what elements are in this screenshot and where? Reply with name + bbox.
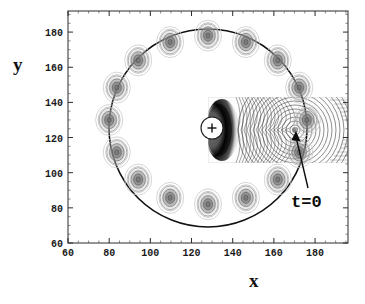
y-tick-label: 80 — [51, 204, 63, 215]
x-tick-label: 180 — [306, 248, 324, 259]
contour-blob — [264, 45, 291, 76]
contour-blob — [195, 189, 222, 220]
center-source-marker — [201, 117, 223, 139]
y-tick-label: 140 — [45, 98, 63, 109]
contour-blob — [293, 104, 320, 135]
x-axis-title: x — [249, 270, 259, 292]
contour-blob — [125, 164, 152, 195]
contour-blob — [286, 72, 313, 103]
y-tick-label: 160 — [45, 63, 63, 74]
contour-blob — [232, 27, 259, 58]
contour-blob — [157, 27, 184, 58]
y-axis-title: y — [13, 54, 23, 76]
x-tick-label: 160 — [265, 248, 283, 259]
x-tick-label: 60 — [62, 248, 74, 259]
contour-blob — [103, 72, 130, 103]
contour-blob — [157, 182, 184, 213]
contour-blob — [96, 104, 123, 135]
plot-svg: t=0 608010012014016018060801001201401601… — [0, 0, 365, 304]
annotation-label: t=0 — [291, 193, 322, 212]
x-tick-label: 100 — [141, 248, 159, 259]
contour-blob — [103, 137, 130, 168]
x-tick-label: 120 — [183, 248, 201, 259]
x-tick-label: 80 — [103, 248, 115, 259]
figure-container: t=0 608010012014016018060801001201401601… — [0, 0, 365, 304]
contour-blob — [232, 182, 259, 213]
y-tick-label: 60 — [51, 239, 63, 250]
x-tick-label: 140 — [224, 248, 242, 259]
y-tick-label: 120 — [45, 134, 63, 145]
contour-blob — [195, 20, 222, 51]
y-tick-label: 180 — [45, 28, 63, 39]
contour-blob — [125, 45, 152, 76]
contour-blob — [264, 164, 291, 195]
y-tick-label: 100 — [45, 169, 63, 180]
